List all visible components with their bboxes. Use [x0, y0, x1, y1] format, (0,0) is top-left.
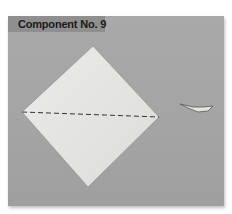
- component-figure: Component No. 9: [8, 16, 224, 206]
- small-paper-piece: [180, 104, 213, 112]
- origami-illustration: [8, 16, 224, 206]
